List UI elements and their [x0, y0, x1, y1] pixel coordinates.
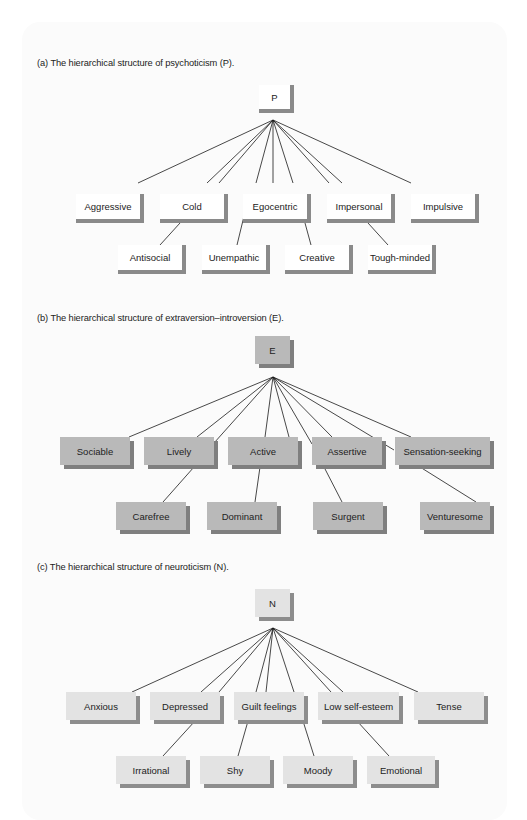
- node-tough-minded: Tough-minded: [368, 245, 436, 274]
- caption-neuroticism: (c) The hierarchical structure of neurot…: [37, 562, 229, 572]
- node-aggressive: Aggressive: [76, 194, 144, 223]
- node-emotional: Emotional: [367, 756, 435, 784]
- node-assertive: Assertive: [312, 437, 382, 465]
- node-cold: Cold: [160, 194, 228, 223]
- node-impersonal: Impersonal: [327, 194, 395, 223]
- node-active: Active: [228, 437, 298, 465]
- node-moody: Moody: [283, 756, 353, 784]
- node-antisocial: Antisocial: [118, 245, 186, 274]
- node-venturesome: Venturesome: [420, 502, 490, 530]
- node-egocentric: Egocentric: [243, 194, 311, 223]
- node-surgent: Surgent: [313, 502, 383, 530]
- node-guilt-feelings: Guilt feelings: [234, 692, 304, 720]
- node-shy: Shy: [200, 756, 270, 784]
- node-tense: Tense: [414, 692, 484, 720]
- node-lively: Lively: [144, 437, 214, 465]
- caption-psychoticism: (a) The hierarchical structure of psycho…: [37, 58, 234, 68]
- node-anxious: Anxious: [66, 692, 136, 720]
- node-creative: Creative: [285, 245, 353, 274]
- node-impulsive: Impulsive: [411, 194, 479, 223]
- node-depressed: Depressed: [150, 692, 220, 720]
- node-sociable: Sociable: [60, 437, 130, 465]
- node-unempathic: Unempathic: [202, 245, 270, 274]
- node-dominant: Dominant: [207, 502, 277, 530]
- node-sensation-seeking: Sensation-seeking: [395, 437, 490, 465]
- node-root-e: E: [255, 336, 290, 364]
- node-root-n: N: [255, 589, 290, 617]
- node-root-p: P: [259, 85, 294, 113]
- caption-extraversion: (b) The hierarchical structure of extrav…: [37, 313, 284, 323]
- node-low-self-esteem: Low self-esteem: [318, 692, 399, 720]
- node-carefree: Carefree: [116, 502, 186, 530]
- node-irrational: Irrational: [116, 756, 186, 784]
